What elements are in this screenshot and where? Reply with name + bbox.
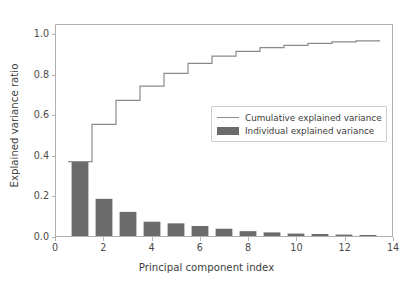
bar — [72, 162, 89, 236]
y-tick-label: 0.0 — [15, 231, 49, 242]
cumulative-step-line — [68, 41, 380, 162]
x-tick-label: 0 — [43, 242, 67, 253]
y-tick-mark — [52, 34, 56, 35]
x-tick-mark — [55, 237, 56, 241]
y-axis-title: Explained variance ratio — [9, 26, 20, 226]
x-tick-label: 8 — [236, 242, 260, 253]
x-tick-mark — [296, 237, 297, 241]
x-tick-label: 2 — [91, 242, 115, 253]
x-axis-title: Principal component index — [0, 262, 413, 273]
legend-label-cumulative: Cumulative explained variance — [245, 113, 382, 123]
x-tick-label: 4 — [140, 242, 164, 253]
bar — [264, 232, 281, 236]
legend-box-swatch-icon — [217, 127, 239, 135]
y-tick-mark — [52, 196, 56, 197]
x-tick-mark — [393, 237, 394, 241]
chart-legend: Cumulative explained variance Individual… — [211, 106, 387, 142]
y-tick-label: 0.8 — [15, 69, 49, 80]
x-tick-label: 10 — [284, 242, 308, 253]
x-tick-mark — [345, 237, 346, 241]
y-tick-mark — [52, 115, 56, 116]
y-tick-label: 0.2 — [15, 190, 49, 201]
bar — [312, 234, 329, 236]
legend-line-swatch-icon — [217, 117, 239, 118]
x-tick-label: 12 — [333, 242, 357, 253]
legend-label-individual: Individual explained variance — [245, 126, 374, 136]
y-tick-label: 1.0 — [15, 28, 49, 39]
x-tick-mark — [248, 237, 249, 241]
bar — [120, 212, 137, 236]
bar — [192, 226, 209, 236]
y-tick-label: 0.4 — [15, 150, 49, 161]
legend-item-cumulative: Cumulative explained variance — [217, 111, 380, 124]
bar — [336, 235, 353, 236]
y-tick-mark — [52, 75, 56, 76]
bar — [168, 223, 185, 236]
pca-explained-variance-chart: 0.00.20.40.60.81.0 02468101214 Explained… — [0, 0, 413, 288]
x-tick-label: 6 — [188, 242, 212, 253]
bar — [240, 231, 257, 236]
bar — [144, 222, 161, 236]
x-tick-mark — [200, 237, 201, 241]
bar — [96, 199, 113, 236]
y-tick-mark — [52, 156, 56, 157]
bar — [288, 234, 305, 236]
x-tick-label: 14 — [381, 242, 405, 253]
y-tick-label: 0.6 — [15, 109, 49, 120]
legend-item-individual: Individual explained variance — [217, 124, 380, 137]
bar — [360, 235, 377, 236]
x-tick-mark — [152, 237, 153, 241]
bar — [216, 229, 233, 236]
bar-series — [72, 162, 377, 236]
x-tick-mark — [103, 237, 104, 241]
